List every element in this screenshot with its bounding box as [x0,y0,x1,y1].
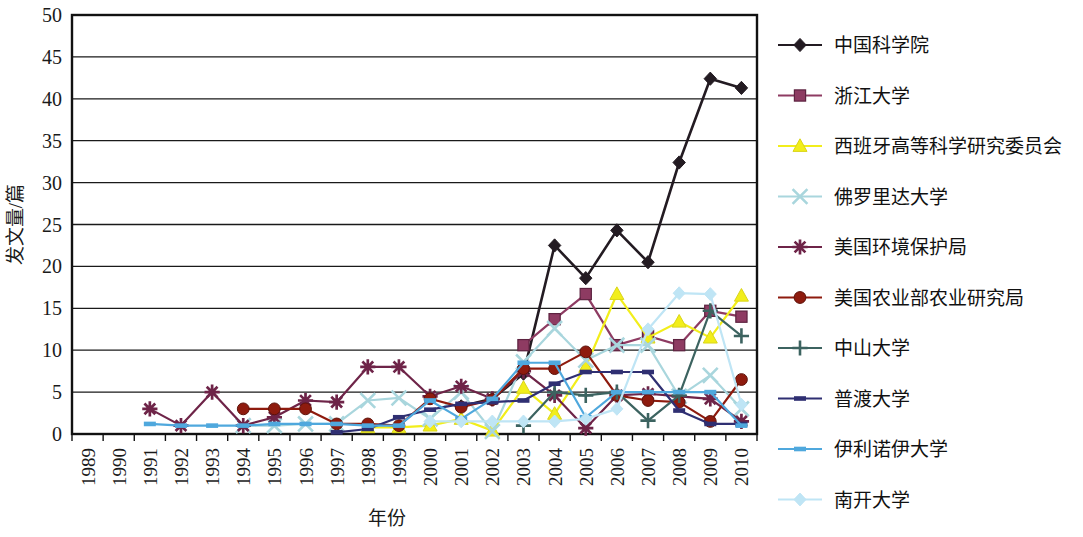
data-point-marker [704,72,716,85]
legend-label: 西班牙高等科学研究委员会 [834,136,1062,157]
x-tick-label: 1999 [389,448,410,486]
data-point-marker [611,390,623,395]
x-tick-label: 2003 [513,448,534,486]
data-point-marker [300,403,312,415]
legend-item-2[interactable]: 浙江大学 [778,86,910,107]
x-tick-label: 1990 [109,448,130,486]
x-tick-label: 2007 [638,448,659,486]
data-point-marker [360,359,375,374]
data-point-marker [674,340,685,351]
data-point-marker [516,381,530,394]
legend-item-6[interactable]: 美国农业部农业研究局 [778,288,1024,309]
data-point-marker [391,359,406,374]
data-point-marker [517,360,529,365]
data-point-marker [792,239,807,254]
legend-label: 美国环境保护局 [834,237,967,258]
data-point-marker [518,340,529,351]
data-point-marker [673,408,685,413]
x-tick-label: 1991 [140,448,161,486]
data-point-marker [424,398,436,403]
y-tick-label: 25 [42,214,62,236]
y-tick-label: 50 [42,4,62,26]
data-point-marker [734,289,748,302]
x-tick-label: 1992 [171,448,192,486]
data-point-marker [580,346,592,358]
legend-item-10[interactable]: 南开大学 [778,490,910,511]
x-tick-label: 2005 [576,448,597,486]
data-point-marker [205,385,220,400]
legend-label: 普渡大学 [834,389,910,410]
x-tick-label: 2009 [700,448,721,486]
data-point-marker [331,422,343,427]
data-point-marker [455,402,467,407]
data-series-group [142,72,749,439]
data-point-marker [237,403,249,415]
data-point-marker [580,370,592,375]
legend-label: 伊利诺伊大学 [834,439,948,460]
data-point-marker [362,423,374,428]
y-tick-label: 20 [42,255,62,277]
data-point-marker [704,422,716,427]
data-point-marker [393,423,405,428]
data-point-marker [610,287,624,300]
data-point-marker [206,423,218,428]
y-tick-label: 0 [52,423,62,445]
data-point-marker [794,396,806,401]
y-tick-label: 30 [42,172,62,194]
x-tick-label: 1989 [78,448,99,486]
data-point-marker [549,360,561,365]
data-point-marker [704,288,716,301]
x-tick-label: 2008 [669,448,690,486]
x-tick-label: 1995 [264,448,285,486]
data-point-marker [673,390,685,395]
chart-legend: 中国科学院浙江大学西班牙高等科学研究委员会佛罗里达大学美国环境保护局美国农业部农… [778,35,1062,511]
legend-label: 美国农业部农业研究局 [834,288,1024,309]
y-tick-label: 35 [42,130,62,152]
data-point-marker [642,370,654,375]
data-point-marker [142,401,157,416]
legend-label: 南开大学 [834,490,910,511]
x-tick-label: 2004 [545,448,566,487]
data-point-marker [268,403,280,415]
x-axis-title: 年份 [368,508,406,529]
data-point-marker [393,415,405,420]
data-point-marker [300,422,312,427]
data-point-marker [794,493,806,506]
data-point-marker [580,288,591,299]
data-point-marker [672,315,686,328]
data-point-marker [735,81,747,94]
legend-item-4[interactable]: 佛罗里达大学 [778,187,948,208]
legend-item-1[interactable]: 中国科学院 [778,35,929,56]
legend-label: 中国科学院 [834,35,929,56]
data-point-marker [578,388,593,403]
series-5 [142,359,749,435]
data-point-marker [549,381,561,386]
x-axis-tick-labels: 1989199019911992199319941995199619971998… [78,448,753,487]
legend-item-5[interactable]: 美国环境保护局 [778,237,967,258]
data-point-marker [642,395,654,407]
legend-label: 浙江大学 [834,86,910,107]
series-line [461,79,741,407]
data-point-marker [794,38,806,51]
data-point-marker [517,398,529,403]
legend-item-9[interactable]: 伊利诺伊大学 [778,439,948,460]
data-point-marker [794,447,806,452]
data-point-marker [611,402,623,415]
y-axis-tick-labels: 05101520253035404550 [42,4,62,445]
y-tick-label: 10 [42,339,62,361]
x-tick-label: 1993 [202,448,223,486]
data-point-marker [673,156,685,169]
legend-item-7[interactable]: 中山大学 [778,338,910,359]
data-point-marker [329,395,344,410]
data-point-marker [144,422,156,427]
x-tick-label: 1994 [233,448,254,487]
x-tick-label: 2001 [451,448,472,486]
data-point-marker [792,340,807,355]
legend-item-8[interactable]: 普渡大学 [778,389,910,410]
x-tick-label: 2010 [731,448,752,486]
legend-item-3[interactable]: 西班牙高等科学研究委员会 [778,136,1062,157]
data-point-marker [704,390,716,395]
y-tick-label: 5 [52,381,62,403]
x-tick-label: 2000 [420,448,441,486]
data-point-marker [454,379,469,394]
